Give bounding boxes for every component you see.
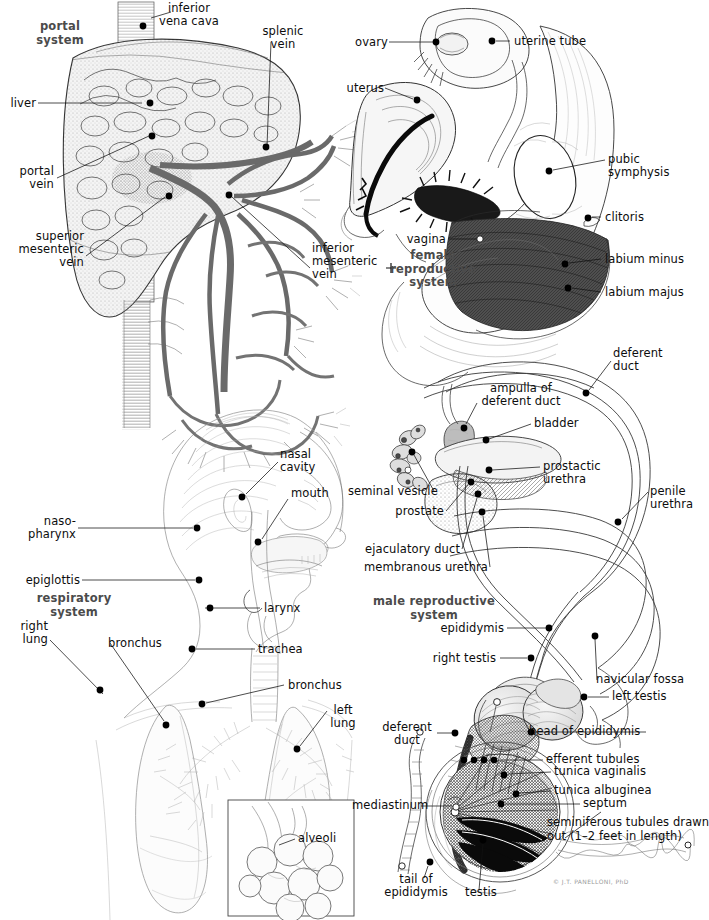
label-left-testis: left testis xyxy=(612,690,674,703)
label-prostatic-urethra: prostactic urethra xyxy=(543,460,607,486)
label-prostate: prostate xyxy=(378,505,444,518)
label-larynx: larynx xyxy=(264,602,308,615)
label-ejaculatory-duct: ejaculatory duct xyxy=(350,543,460,556)
label-inferior-mesenteric-vein: inferior mesenteric vein xyxy=(312,242,372,281)
system-label-female-reproductive-system: female reproductive system xyxy=(378,249,488,290)
label-splenic-vein: splenic vein xyxy=(255,25,311,51)
label-testis: testis xyxy=(459,886,503,899)
label-inferior-vena-cava: inferior vena cava xyxy=(150,2,228,28)
label-bronchus-left-side: bronchus xyxy=(104,637,166,650)
label-seminal-vesicle: seminal vesicle xyxy=(348,485,434,498)
system-label-respiratory-system: respiratory system xyxy=(18,592,130,619)
label-labium-majus: labium majus xyxy=(605,286,691,299)
label-bladder: bladder xyxy=(534,417,584,430)
label-deferent-duct-detail: deferent duct xyxy=(378,721,436,747)
label-ovary: ovary xyxy=(348,36,388,49)
label-mouth: mouth xyxy=(291,487,339,500)
artist-signature: © J.T. PANELLONI, PhD xyxy=(553,878,629,885)
label-membranous-urethra: membranous urethra xyxy=(358,561,488,574)
female-reproductive-artwork xyxy=(341,8,630,385)
label-liver: liver xyxy=(2,97,36,110)
label-right-lung: right lung xyxy=(4,620,48,646)
label-tail-of-epididymis: tail of epididymis xyxy=(382,873,450,899)
label-penile-urethra: penile urethra xyxy=(650,485,694,511)
label-seminiferous-tubules: seminiferous tubules drawn out (1–2 feet… xyxy=(547,815,697,843)
label-trachea: trachea xyxy=(258,643,314,656)
system-label-portal-system: portal system xyxy=(20,20,100,47)
label-right-testis: right testis xyxy=(424,652,496,665)
label-septum: septum xyxy=(583,797,643,810)
label-deferent-duct: deferent duct xyxy=(613,347,669,373)
label-vagina: vagina xyxy=(404,233,446,246)
label-uterus: uterus xyxy=(340,82,384,95)
label-head-of-epididymis: head of epididymis xyxy=(529,725,649,738)
system-label-male-reproductive-system: male reproductive system xyxy=(368,595,500,622)
label-epididymis: epididymis xyxy=(428,622,504,635)
label-bronchus-right-side: bronchus xyxy=(288,679,350,692)
label-nasopharynx: naso- pharynx xyxy=(10,515,76,541)
label-alveoli: alveoli xyxy=(298,832,342,845)
label-pubic-symphysis: pubic symphysis xyxy=(608,153,674,179)
label-nasal-cavity: nasal cavity xyxy=(280,448,326,474)
label-labium-minus: labium minus xyxy=(605,253,691,266)
label-superior-mesenteric-vein: superior mesenteric vein xyxy=(2,230,84,269)
label-left-lung: left lung xyxy=(324,704,362,730)
label-clitoris: clitoris xyxy=(605,211,661,224)
label-navicular-fossa: navicular fossa xyxy=(596,673,688,686)
portal-system-artwork xyxy=(60,2,366,472)
label-portal-vein: portal vein xyxy=(2,165,54,191)
label-mediastinum: mediastinum xyxy=(352,799,418,812)
label-ampulla-of-deferent-duct: ampulla of deferent duct xyxy=(474,382,568,408)
label-uterine-tube: uterine tube xyxy=(514,35,596,48)
label-tunica-vaginalis: tunica vaginalis xyxy=(554,765,658,778)
label-epiglottis: epiglottis xyxy=(8,574,80,587)
